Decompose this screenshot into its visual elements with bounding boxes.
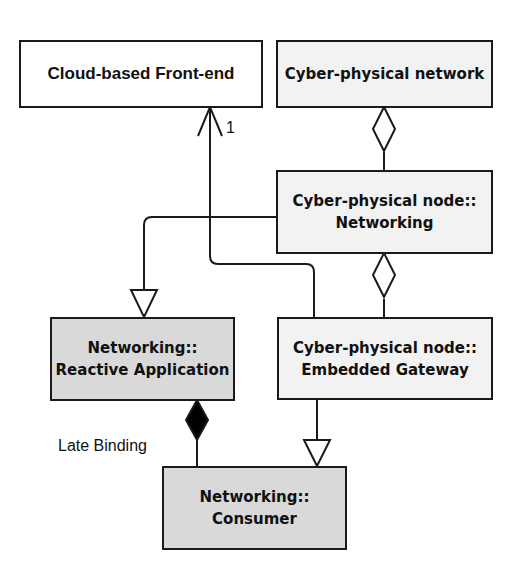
late-binding-label: Late Binding xyxy=(58,437,147,455)
class-networking-reactive-application[interactable]: Networking:: Reactive Application xyxy=(50,317,235,401)
class-cp-node-networking[interactable]: Cyber-physical node:: Networking xyxy=(276,170,493,254)
multiplicity-label: 1 xyxy=(226,119,235,137)
class-label: Cyber-physical node:: xyxy=(293,190,477,212)
class-label: Networking:: xyxy=(200,486,310,508)
class-label: Consumer xyxy=(212,508,297,530)
class-cloud-frontend[interactable]: Cloud-based Front-end xyxy=(19,40,263,108)
class-networking-consumer[interactable]: Networking:: Consumer xyxy=(162,466,347,550)
hollow-triangle-icon xyxy=(304,440,330,466)
filled-diamond-icon xyxy=(186,400,208,440)
class-label: Networking:: xyxy=(88,337,198,359)
class-cp-node-embedded-gateway[interactable]: Cyber-physical node:: Embedded Gateway xyxy=(277,317,493,400)
class-label: Cyber-physical network xyxy=(285,63,485,85)
class-label: Reactive Application xyxy=(56,359,230,381)
class-label: Cyber-physical node:: xyxy=(293,337,477,359)
class-label: Networking xyxy=(336,212,434,234)
hollow-diamond-icon xyxy=(373,107,395,151)
class-label: Embedded Gateway xyxy=(301,359,468,381)
class-label: Cloud-based Front-end xyxy=(48,63,235,85)
hollow-triangle-icon xyxy=(131,290,157,317)
hollow-diamond-icon xyxy=(373,253,395,297)
class-cyber-physical-network[interactable]: Cyber-physical network xyxy=(276,40,493,108)
